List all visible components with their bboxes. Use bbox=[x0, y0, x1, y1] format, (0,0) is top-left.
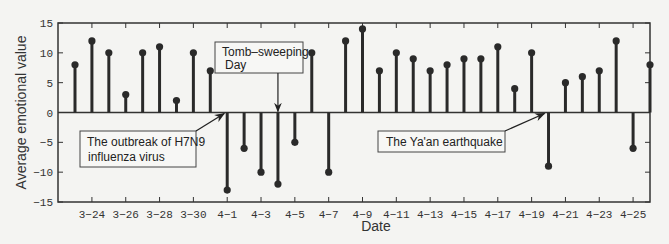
stem-marker bbox=[190, 49, 197, 56]
x-tick-label: 3−26 bbox=[113, 209, 139, 221]
stem-marker bbox=[207, 67, 214, 74]
stem-marker bbox=[460, 55, 467, 62]
stem-marker bbox=[359, 25, 366, 32]
y-tick-label: −15 bbox=[33, 197, 53, 209]
stem-marker bbox=[511, 85, 518, 92]
x-tick-label: 4−3 bbox=[251, 209, 271, 221]
x-tick-label: 4−23 bbox=[586, 209, 612, 221]
stem-marker bbox=[545, 163, 552, 170]
y-axis-label: Average emotional value bbox=[13, 35, 29, 189]
stem-marker bbox=[393, 49, 400, 56]
y-tick-label: 5 bbox=[46, 78, 53, 90]
stem-marker bbox=[105, 49, 112, 56]
stem-marker bbox=[579, 73, 586, 80]
x-tick-label: 4−15 bbox=[451, 209, 477, 221]
x-tick-label: 3−28 bbox=[146, 209, 172, 221]
stem-marker bbox=[410, 55, 417, 62]
annotation-arrow-h7n9 bbox=[196, 114, 224, 132]
stem-marker bbox=[427, 67, 434, 74]
stem-marker bbox=[629, 145, 636, 152]
y-tick-label: 10 bbox=[40, 48, 53, 60]
stem-marker bbox=[562, 79, 569, 86]
x-tick-label: 4−13 bbox=[417, 209, 443, 221]
annotation-text-h7n9: The outbreak of H7N9 bbox=[87, 135, 205, 149]
stem-marker bbox=[122, 91, 129, 98]
y-tick-label: −10 bbox=[33, 167, 53, 179]
y-tick-label: 15 bbox=[40, 18, 53, 30]
y-tick-label: 0 bbox=[46, 108, 53, 120]
annotation-text-h7n9: influenza virus bbox=[88, 150, 165, 164]
stem-marker bbox=[494, 43, 501, 50]
stem-marker bbox=[274, 181, 281, 188]
annotation-text-tomb: Tomb–sweeping bbox=[222, 45, 309, 59]
stem-marker bbox=[528, 49, 535, 56]
x-tick-label: 4−7 bbox=[319, 209, 339, 221]
x-tick-label: 3−24 bbox=[79, 209, 106, 221]
x-tick-label: 4−1 bbox=[217, 209, 237, 221]
stem-marker bbox=[613, 37, 620, 44]
annotation-text-yaan: The Ya'an earthquake bbox=[386, 135, 503, 149]
stem-marker bbox=[291, 139, 298, 146]
x-tick-label: 4−17 bbox=[485, 209, 511, 221]
stem-marker bbox=[257, 169, 264, 176]
stem-marker bbox=[139, 49, 146, 56]
x-tick-label: 4−5 bbox=[285, 209, 305, 221]
stem-marker bbox=[71, 61, 78, 68]
annotation-text-tomb: Day bbox=[225, 58, 246, 72]
stem-marker bbox=[646, 61, 653, 68]
stem-marker bbox=[241, 145, 248, 152]
x-axis-label: Date bbox=[361, 218, 391, 234]
x-tick-label: 4−25 bbox=[620, 209, 646, 221]
stem-marker bbox=[156, 43, 163, 50]
x-tick-label: 4−21 bbox=[552, 209, 579, 221]
stem-marker bbox=[88, 37, 95, 44]
stem-marker bbox=[376, 67, 383, 74]
stem-marker bbox=[325, 169, 332, 176]
stem-marker bbox=[173, 97, 180, 104]
stem-marker bbox=[308, 49, 315, 56]
stem-marker bbox=[477, 55, 484, 62]
stem-marker bbox=[596, 67, 603, 74]
stem-marker bbox=[342, 37, 349, 44]
x-tick-label: 3−30 bbox=[180, 209, 206, 221]
stem-marker bbox=[224, 186, 231, 193]
annotation-arrow-yaan bbox=[505, 114, 545, 132]
x-tick-label: 4−19 bbox=[518, 209, 544, 221]
y-tick-label: −5 bbox=[40, 137, 53, 149]
stem-marker bbox=[443, 61, 450, 68]
stem-chart: −15−10−50510153−243−263−283−304−14−34−54… bbox=[0, 0, 669, 244]
